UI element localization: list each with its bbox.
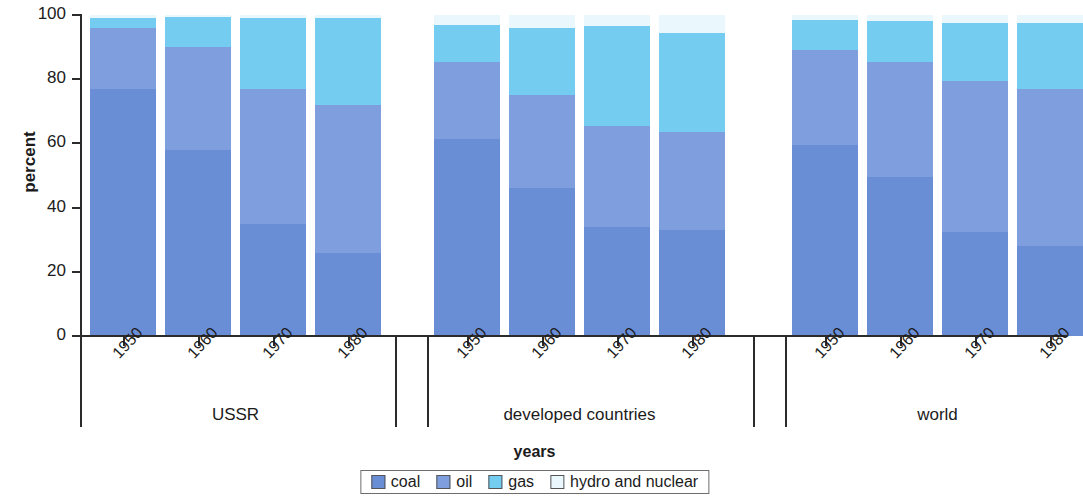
bar-segment-coal bbox=[90, 89, 156, 336]
bar-segment-oil bbox=[315, 105, 381, 253]
bar-segment-coal bbox=[434, 139, 500, 336]
bar-developed-countries-1960 bbox=[509, 15, 575, 336]
legend-label: hydro and nuclear bbox=[570, 474, 698, 490]
bar-segment-coal bbox=[659, 230, 725, 336]
plot-area bbox=[82, 15, 1067, 336]
group-label-USSR: USSR bbox=[90, 405, 381, 425]
y-tick-80 bbox=[72, 78, 82, 80]
bar-segment-gas bbox=[659, 33, 725, 133]
bar-segment-hydro-and-nuclear bbox=[942, 15, 1008, 23]
bar-segment-hydro-and-nuclear bbox=[792, 15, 858, 20]
y-tick-60 bbox=[72, 142, 82, 144]
bar-world-1970 bbox=[942, 15, 1008, 336]
bar-segment-hydro-and-nuclear bbox=[867, 15, 933, 21]
bar-developed-countries-1970 bbox=[584, 15, 650, 336]
bar-segment-hydro-and-nuclear bbox=[659, 15, 725, 33]
bar-segment-gas bbox=[584, 26, 650, 126]
bar-segment-oil bbox=[584, 126, 650, 227]
group-separator-1 bbox=[395, 337, 397, 427]
bar-segment-coal bbox=[165, 150, 231, 336]
bar-segment-gas bbox=[165, 17, 231, 47]
bar-segment-hydro-and-nuclear bbox=[315, 15, 381, 18]
y-tick-label-0: 0 bbox=[14, 325, 66, 345]
legend-label: coal bbox=[391, 474, 420, 490]
bar-segment-coal bbox=[792, 145, 858, 336]
bar-segment-hydro-and-nuclear bbox=[1017, 15, 1083, 23]
chart-legend: coaloilgashydro and nuclear bbox=[360, 470, 709, 494]
y-tick-label-20: 20 bbox=[14, 261, 66, 281]
bar-USSR-1980 bbox=[315, 15, 381, 336]
group-separator-0 bbox=[80, 337, 82, 427]
legend-swatch-oil-icon bbox=[436, 475, 450, 489]
bar-segment-oil bbox=[792, 50, 858, 145]
bar-USSR-1960 bbox=[165, 15, 231, 336]
legend-swatch-gas-icon bbox=[488, 475, 502, 489]
bar-segment-gas bbox=[509, 28, 575, 95]
bar-segment-oil bbox=[165, 47, 231, 150]
bar-segment-gas bbox=[434, 25, 500, 62]
legend-label: oil bbox=[456, 474, 472, 490]
bar-segment-coal bbox=[509, 188, 575, 336]
y-tick-20 bbox=[72, 271, 82, 273]
bar-segment-oil bbox=[659, 132, 725, 230]
y-tick-100 bbox=[72, 14, 82, 16]
bar-world-1980 bbox=[1017, 15, 1083, 336]
legend-label: gas bbox=[508, 474, 534, 490]
group-separator-2 bbox=[427, 337, 429, 427]
bar-segment-coal bbox=[1017, 246, 1083, 336]
bar-USSR-1950 bbox=[90, 15, 156, 336]
legend-item-oil[interactable]: oil bbox=[436, 474, 472, 490]
bar-segment-oil bbox=[509, 95, 575, 188]
bar-segment-gas bbox=[867, 21, 933, 61]
bar-segment-hydro-and-nuclear bbox=[434, 15, 500, 25]
bar-developed-countries-1950 bbox=[434, 15, 500, 336]
bar-segment-gas bbox=[315, 18, 381, 105]
y-tick-label-40: 40 bbox=[14, 197, 66, 217]
x-axis-title: years bbox=[0, 443, 1069, 461]
bar-segment-gas bbox=[240, 18, 306, 89]
bar-segment-hydro-and-nuclear bbox=[240, 15, 306, 18]
bar-segment-coal bbox=[315, 253, 381, 336]
legend-swatch-hydro-and-nuclear-icon bbox=[550, 475, 564, 489]
bar-segment-oil bbox=[1017, 89, 1083, 246]
legend-item-gas[interactable]: gas bbox=[488, 474, 534, 490]
bar-segment-oil bbox=[434, 62, 500, 139]
bar-segment-oil bbox=[90, 28, 156, 89]
bar-segment-gas bbox=[1017, 23, 1083, 89]
legend-swatch-coal-icon bbox=[371, 475, 385, 489]
bar-segment-coal bbox=[867, 177, 933, 336]
y-tick-label-60: 60 bbox=[14, 132, 66, 152]
bar-world-1950 bbox=[792, 15, 858, 336]
bar-segment-coal bbox=[584, 227, 650, 336]
bar-segment-gas bbox=[792, 20, 858, 50]
bar-segment-oil bbox=[942, 81, 1008, 232]
bar-segment-oil bbox=[240, 89, 306, 224]
y-tick-40 bbox=[72, 207, 82, 209]
group-separator-3 bbox=[753, 337, 755, 427]
bar-segment-gas bbox=[942, 23, 1008, 81]
bar-segment-oil bbox=[867, 62, 933, 178]
legend-item-coal[interactable]: coal bbox=[371, 474, 420, 490]
bar-developed-countries-1980 bbox=[659, 15, 725, 336]
bar-USSR-1970 bbox=[240, 15, 306, 336]
bar-segment-hydro-and-nuclear bbox=[584, 15, 650, 26]
bar-segment-hydro-and-nuclear bbox=[165, 15, 231, 17]
legend-item-hydro-and-nuclear[interactable]: hydro and nuclear bbox=[550, 474, 698, 490]
bar-segment-gas bbox=[90, 18, 156, 28]
bar-segment-coal bbox=[240, 224, 306, 336]
bar-segment-hydro-and-nuclear bbox=[509, 15, 575, 28]
bar-segment-coal bbox=[942, 232, 1008, 336]
bar-segment-hydro-and-nuclear bbox=[90, 15, 156, 18]
group-label-world: world bbox=[792, 405, 1083, 425]
group-separator-4 bbox=[785, 337, 787, 427]
y-tick-label-100: 100 bbox=[14, 4, 66, 24]
y-tick-label-80: 80 bbox=[14, 68, 66, 88]
bar-world-1960 bbox=[867, 15, 933, 336]
group-label-developed-countries: developed countries bbox=[434, 405, 725, 425]
